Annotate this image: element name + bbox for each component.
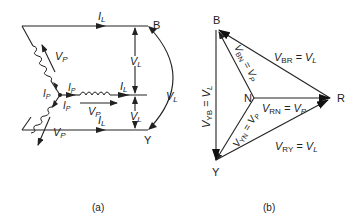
node-b-label-b: B <box>213 14 220 26</box>
middle-phase-coil <box>80 92 110 95</box>
arc-line-voltage-label: VL <box>166 90 178 104</box>
figure-a-circuit: B Y IL IL IL IP IP IP VP VP VP VL VL VL … <box>22 10 178 213</box>
upper-phase-lead <box>22 26 33 46</box>
node-y-label-b: Y <box>212 166 220 178</box>
lower-line-voltage-label: VL <box>130 110 142 124</box>
node-b-label-a: B <box>153 19 160 31</box>
v-rn-label: VRN = VP <box>262 102 307 116</box>
top-line-current-label: IL <box>98 10 106 24</box>
middle-phase-voltage-label: VP <box>88 105 101 119</box>
line-voltage-arc <box>150 28 173 128</box>
upper-phase-voltage-label: VP <box>55 50 68 64</box>
lower-phase-voltage-arrow <box>38 117 50 145</box>
phase-current-label-3: IP <box>63 100 71 112</box>
middle-line-current-label: IL <box>120 80 128 94</box>
caption-b: (b) <box>263 202 275 213</box>
star-connection-diagram: B Y IL IL IL IP IP IP VP VP VP VL VL VL … <box>0 0 361 223</box>
caption-a: (a) <box>92 202 104 213</box>
upper-phase-coil <box>33 46 52 81</box>
phase-current-label-2: IP <box>43 88 51 100</box>
v-br-label: VBR = VL <box>274 51 317 65</box>
figure-b-phasor: B N R Y VBR = VL VBN = VP VRN = VP VYN =… <box>200 14 345 213</box>
node-n-label: N <box>244 92 252 104</box>
upper-line-voltage-label: VL <box>130 55 142 69</box>
v-ry-label: VRY = VL <box>275 140 318 154</box>
upper-phase-voltage-arrow <box>42 45 55 72</box>
lower-phase-voltage-label: VP <box>53 126 66 140</box>
phase-current-label-1: IP <box>68 82 76 94</box>
node-y-label-a: Y <box>144 134 152 146</box>
arc-arrow-y <box>148 122 157 130</box>
v-yb-label: VYB = VL <box>200 86 214 128</box>
node-r-label: R <box>337 92 345 104</box>
lower-phase-current-arrow <box>52 100 58 108</box>
